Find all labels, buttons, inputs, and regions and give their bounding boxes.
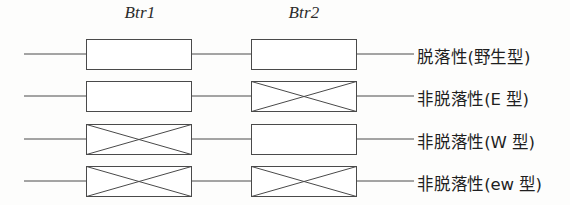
row-label-e-type: 非脱落性(E 型) [417,86,529,110]
gene-box-btr2 [252,125,357,155]
diagram-row [24,40,414,70]
row-label-ew-type: 非脱落性(ew 型) [417,171,542,195]
gene-box-btr2 [252,40,357,70]
gene-diagram: Btr1 Btr2 脱落性(野生型) 非脱落性(E 型) 非脱落性(W 型) 非… [0,0,570,205]
row-label-wild-type: 脱落性(野生型) [417,44,530,68]
gene-box-btr1 [87,82,192,112]
row-label-w-type: 非脱落性(W 型) [417,129,535,153]
gene-box-btr1 [87,40,192,70]
diagram-row [24,167,414,197]
diagram-row [24,82,414,112]
diagram-row [24,125,414,155]
